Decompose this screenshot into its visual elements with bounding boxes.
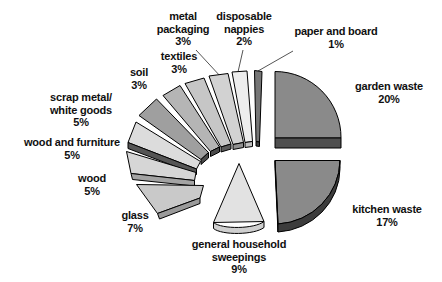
label-pct-soil: 3%	[118, 79, 160, 92]
label-text-paper-and-board: paper and board	[294, 25, 377, 37]
slice-label-garden-waste: garden waste 20%	[344, 80, 434, 105]
label-text-disposable-nappies-line2: nappies	[224, 23, 264, 35]
slice-kitchen-waste[interactable]	[275, 161, 340, 233]
slice-paper-and-board[interactable]	[255, 71, 263, 147]
slice-label-kitchen-waste: kitchen waste 17%	[341, 203, 433, 228]
label-text-wood: wood	[78, 172, 106, 184]
slice-label-glass: glass 7%	[111, 209, 159, 234]
slice-general-household-sweepings[interactable]	[214, 164, 265, 234]
slice-garden-waste[interactable]	[275, 72, 341, 149]
slice-label-soil: soil 3%	[118, 66, 160, 91]
slice-label-wood: wood 5%	[67, 172, 117, 197]
slice-label-textiles: textiles 3%	[152, 50, 206, 75]
label-text-glass: glass	[121, 209, 148, 221]
slice-label-general-household-sweepings: general household sweepings 9%	[180, 238, 298, 276]
label-pct-general-household: 9%	[180, 263, 298, 276]
label-pct-paper-and-board: 1%	[283, 38, 389, 51]
label-text-scrap-metal-line1: scrap metal/	[50, 91, 112, 103]
label-text-wood-and-furniture: wood and furniture	[24, 136, 120, 148]
label-text-soil: soil	[130, 66, 148, 78]
label-pct-scrap-metal: 5%	[32, 116, 130, 129]
label-pct-disposable-nappies: 2%	[205, 35, 283, 48]
leader-line-disposable-nappies	[238, 50, 243, 72]
label-pct-garden-waste: 20%	[344, 93, 434, 106]
label-text-garden-waste: garden waste	[355, 80, 423, 92]
slice-label-scrap-metal-white-goods: scrap metal/ white goods 5%	[32, 91, 130, 129]
slice-label-paper-and-board: paper and board 1%	[283, 25, 389, 50]
leader-line-paper-and-board	[258, 51, 293, 71]
label-text-general-household-line1: general household	[192, 238, 286, 250]
pie-chart-figure: metal packaging 3% disposable nappies 2%…	[0, 0, 442, 282]
label-text-disposable-nappies-line1: disposable	[216, 10, 271, 22]
label-pct-textiles: 3%	[152, 63, 206, 76]
label-text-kitchen-waste: kitchen waste	[352, 203, 422, 215]
label-pct-glass: 7%	[111, 222, 159, 235]
slice-label-disposable-nappies: disposable nappies 2%	[205, 10, 283, 48]
slice-label-wood-and-furniture: wood and furniture 5%	[14, 136, 130, 161]
label-text-textiles: textiles	[161, 50, 197, 62]
label-pct-wood: 5%	[67, 185, 117, 198]
label-text-scrap-metal-line2: white goods	[50, 104, 112, 116]
label-text-metal-packaging-line2: packaging	[157, 23, 210, 35]
label-pct-wood-and-furniture: 5%	[14, 149, 130, 162]
label-text-metal-packaging-line1: metal	[169, 10, 197, 22]
label-text-general-household-line2: sweepings	[212, 251, 266, 263]
label-pct-kitchen-waste: 17%	[341, 216, 433, 229]
